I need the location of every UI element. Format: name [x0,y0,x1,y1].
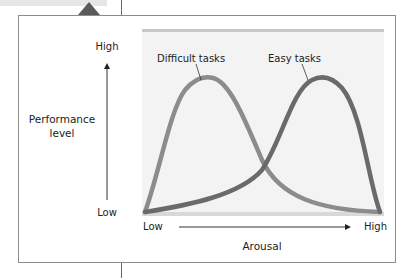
x-low-label: Low [143,221,163,232]
plot-bottom-band [142,212,384,216]
y-high-label: High [96,41,119,52]
plot-top-band [142,29,384,32]
y-axis-title-line1: Performance [29,113,96,125]
yerkes-dodson-chart: Difficult tasks Easy tasks High Low Perf… [0,0,412,278]
y-low-label: Low [97,207,117,218]
x-axis-title: Arousal [242,240,281,252]
x-high-label: High [364,221,387,232]
y-axis-title-line2: level [50,127,75,139]
easy-tasks-label: Easy tasks [268,53,321,64]
difficult-tasks-label: Difficult tasks [157,53,225,64]
